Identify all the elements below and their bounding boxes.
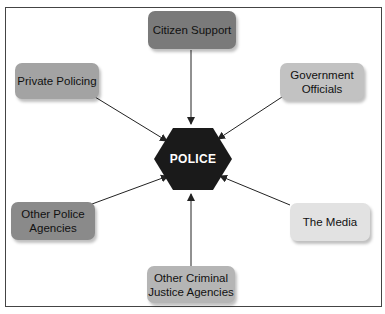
node-private-policing: Private Policing (15, 63, 99, 99)
node-the-media: The Media (290, 203, 370, 241)
node-label: Private Policing (17, 74, 96, 88)
node-label: Citizen Support (153, 23, 232, 37)
node-label-line-2: Officials (302, 82, 343, 96)
node-label-line-2: Justice Agencies (148, 285, 234, 299)
node-other-criminal-justice-agencies: Other Criminal Justice Agencies (147, 266, 235, 303)
node-label-line-1: Other Criminal (154, 271, 228, 285)
node-citizen-support: Citizen Support (148, 11, 236, 49)
node-other-police-agencies: Other Police Agencies (11, 202, 95, 240)
node-label-line-1: Other Police (21, 207, 84, 221)
node-label: The Media (303, 215, 357, 229)
node-label-line-1: Government (290, 68, 353, 82)
node-government-officials: Government Officials (280, 63, 364, 100)
police-node-label: POLICE (153, 127, 233, 191)
node-label-line-2: Agencies (29, 221, 76, 235)
